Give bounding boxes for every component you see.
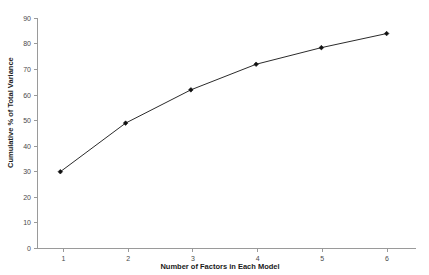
line-chart: Cumulative % of Total Variance 0 10 20 3…: [0, 0, 429, 275]
y-tick-6: 60: [23, 92, 37, 99]
x-tick-3: 4: [256, 249, 260, 263]
x-tick-5: 6: [385, 249, 389, 263]
y-tick-9: 90: [23, 15, 37, 22]
y-axis-ticks: 0 10 20 30 40 50: [23, 15, 37, 252]
x-axis-ticks: 1 2 3 4 5 6: [62, 249, 390, 263]
x-tick-4: 5: [320, 249, 324, 263]
x-tick-label: 5: [320, 255, 324, 262]
y-tick-label: 30: [23, 168, 31, 175]
x-tick-label: 1: [62, 255, 66, 262]
x-tick-2: 3: [191, 249, 195, 263]
x-tick-label: 3: [191, 255, 195, 262]
y-tick-label: 60: [23, 92, 31, 99]
y-tick-label: 20: [23, 194, 31, 201]
series-line: [60, 34, 386, 172]
y-tick-8: 80: [23, 40, 37, 47]
x-tick-label: 2: [126, 255, 130, 262]
x-tick-1: 2: [126, 249, 130, 263]
x-tick-label: 4: [256, 255, 260, 262]
y-tick-0: 0: [27, 245, 37, 252]
data-point-marker: [384, 31, 389, 36]
y-tick-1: 10: [23, 219, 37, 226]
y-tick-4: 40: [23, 143, 37, 150]
chart-container: Cumulative % of Total Variance 0 10 20 3…: [0, 0, 429, 275]
y-tick-label: 70: [23, 66, 31, 73]
data-point-marker: [189, 88, 194, 93]
y-axis-title: Cumulative % of Total Variance: [6, 57, 15, 168]
y-tick-label: 10: [23, 219, 31, 226]
data-series-cumulative-variance: [58, 31, 389, 174]
y-tick-7: 70: [23, 66, 37, 73]
data-point-marker: [319, 45, 324, 50]
y-tick-label: 0: [27, 245, 31, 252]
y-tick-label: 50: [23, 117, 31, 124]
y-tick-label: 40: [23, 143, 31, 150]
x-tick-label: 6: [385, 255, 389, 262]
x-tick-0: 1: [62, 249, 66, 263]
series-markers: [58, 31, 389, 174]
data-point-marker: [254, 62, 259, 67]
y-tick-label: 80: [23, 40, 31, 47]
y-tick-label: 90: [23, 15, 31, 22]
y-tick-3: 30: [23, 168, 37, 175]
x-axis-title: Number of Factors in Each Model: [160, 262, 279, 271]
y-tick-5: 50: [23, 117, 37, 124]
y-tick-2: 20: [23, 194, 37, 201]
